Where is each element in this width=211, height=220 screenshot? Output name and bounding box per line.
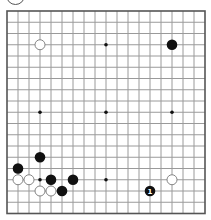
black-stone[interactable] [35, 152, 46, 163]
star-point [104, 178, 108, 182]
star-point [104, 110, 108, 114]
black-stone[interactable] [57, 186, 68, 197]
white-stone[interactable] [167, 175, 177, 185]
black-stone[interactable] [46, 174, 57, 185]
star-point [104, 43, 108, 47]
black-stone[interactable] [167, 39, 178, 50]
white-stone[interactable] [46, 186, 56, 196]
star-point [38, 178, 42, 182]
black-stone[interactable] [13, 163, 24, 174]
white-stone[interactable] [35, 186, 45, 196]
white-stone[interactable] [24, 175, 34, 185]
black-stone[interactable] [68, 174, 79, 185]
move-number-label: 1 [148, 188, 153, 196]
white-stone[interactable] [13, 175, 23, 185]
star-point [170, 110, 174, 114]
star-point [38, 110, 42, 114]
go-board[interactable]: 1 [0, 0, 211, 220]
white-stone[interactable] [35, 40, 45, 50]
